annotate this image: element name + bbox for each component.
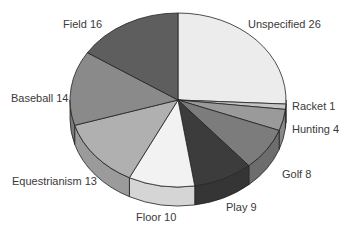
label-racket: Racket 1 <box>292 100 335 112</box>
pie-slices <box>70 13 286 187</box>
label-equestrianism: Equestrianism 13 <box>12 175 97 187</box>
label-floor: Floor 10 <box>136 211 176 223</box>
label-unspecified: Unspecified 26 <box>248 18 321 30</box>
pie-chart: Unspecified 26Racket 1Hunting 4Golf 8Pla… <box>0 0 344 231</box>
label-field: Field 16 <box>63 18 102 30</box>
label-hunting: Hunting 4 <box>292 123 339 135</box>
label-play: Play 9 <box>226 201 257 213</box>
label-golf: Golf 8 <box>282 168 311 180</box>
label-baseball: Baseball 14 <box>11 92 69 104</box>
